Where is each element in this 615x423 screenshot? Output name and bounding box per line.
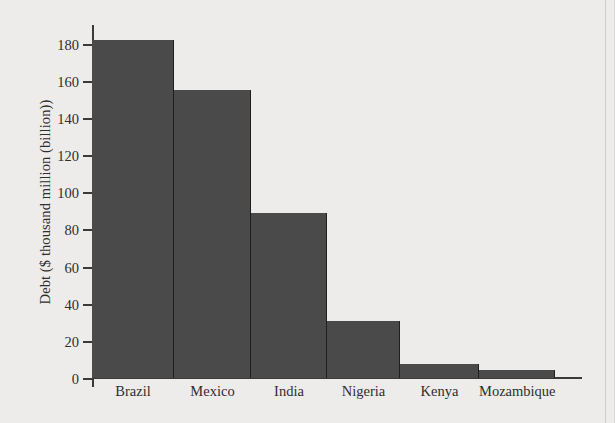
y-tick-label: 60 <box>65 260 80 275</box>
y-tick-mark <box>83 378 92 380</box>
y-tick-mark <box>83 229 92 231</box>
y-tick-mark <box>83 44 92 46</box>
y-tick-mark <box>83 192 92 194</box>
y-tick-mark <box>83 118 92 120</box>
x-category-label-mozambique: Mozambique <box>479 384 555 400</box>
y-tick-mark <box>83 81 92 83</box>
y-tick-label: 0 <box>72 372 79 387</box>
y-tick-label: 140 <box>57 112 79 127</box>
plot-area: 020406080100120140160180 <box>92 25 582 378</box>
y-tick-mark <box>83 267 92 269</box>
x-category-label-mexico: Mexico <box>174 384 251 400</box>
bar-mexico <box>174 90 251 378</box>
y-tick-mark <box>83 155 92 157</box>
y-tick-label: 100 <box>57 186 79 201</box>
page-edge-line <box>605 0 606 423</box>
y-tick-label: 40 <box>65 297 80 312</box>
x-category-label-brazil: Brazil <box>92 384 174 400</box>
x-category-label-nigeria: Nigeria <box>327 384 400 400</box>
y-tick-label: 180 <box>57 37 79 52</box>
y-axis-title: Debt ($ thousand million (billion)) <box>32 22 58 382</box>
x-category-label-india: India <box>251 384 327 400</box>
y-tick-label: 120 <box>57 149 79 164</box>
bar-chart-figure: Debt ($ thousand million (billion)) 0204… <box>0 0 615 423</box>
bar-india <box>251 213 327 378</box>
bar-nigeria <box>327 321 400 378</box>
y-tick-mark <box>83 341 92 343</box>
x-category-label-kenya: Kenya <box>400 384 479 400</box>
y-tick-label: 20 <box>65 335 80 350</box>
y-tick-label: 160 <box>57 74 79 89</box>
bar-kenya <box>400 364 479 378</box>
y-tick-label: 80 <box>65 223 80 238</box>
y-tick-mark <box>83 304 92 306</box>
bar-brazil <box>92 40 174 378</box>
bar-mozambique <box>479 370 555 378</box>
